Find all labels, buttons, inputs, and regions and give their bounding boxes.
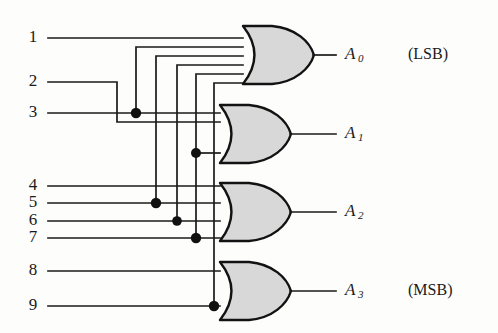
input-label-7: 7 — [29, 227, 38, 246]
output-note-msb: (MSB) — [408, 281, 452, 299]
junction-dot-line-6 — [172, 216, 182, 226]
encoder-diagram-root: 1 2 3 4 5 6 7 8 9 — [0, 0, 498, 333]
output-subscript-a1: 1 — [358, 131, 364, 143]
riser-wire-3 — [136, 47, 243, 113]
or-gate-a0[interactable] — [243, 26, 336, 84]
or-gate-a2-body[interactable] — [220, 183, 291, 241]
output-label-a2: A — [344, 201, 356, 220]
output-note-lsb: (LSB) — [408, 45, 448, 63]
junction-dot-line-9 — [209, 301, 219, 311]
junction-dot-mid — [191, 148, 201, 158]
or-gate-a3[interactable] — [220, 262, 336, 320]
input-label-8: 8 — [29, 260, 38, 279]
logic-circuit-svg: 1 2 3 4 5 6 7 8 9 — [0, 0, 498, 333]
output-labels-group: A 0 (LSB) A 1 A 2 A 3 (MSB) — [344, 44, 452, 300]
or-gate-a3-body[interactable] — [220, 262, 291, 320]
input-label-9: 9 — [29, 295, 38, 314]
junction-dot-line-7 — [191, 233, 201, 243]
input-label-1: 1 — [29, 27, 38, 46]
or-gate-a1[interactable] — [220, 105, 336, 163]
output-subscript-a3: 3 — [357, 288, 364, 300]
junction-dot-line-5 — [151, 198, 161, 208]
output-subscript-a2: 2 — [358, 209, 364, 221]
or-gate-a0-body[interactable] — [243, 26, 314, 84]
output-label-a1: A — [344, 123, 356, 142]
input-label-3: 3 — [29, 102, 38, 121]
or-gate-a1-body[interactable] — [220, 105, 291, 163]
input-labels-group: 1 2 3 4 5 6 7 8 9 — [29, 27, 38, 314]
input-label-5: 5 — [29, 192, 38, 211]
junction-dots-group — [131, 108, 219, 311]
junction-dot-line-3 — [131, 108, 141, 118]
output-subscript-a0: 0 — [358, 52, 364, 64]
output-label-a0: A — [344, 44, 356, 63]
output-label-a3: A — [344, 280, 356, 299]
input-label-2: 2 — [29, 71, 38, 90]
or-gate-a2[interactable] — [220, 183, 336, 241]
